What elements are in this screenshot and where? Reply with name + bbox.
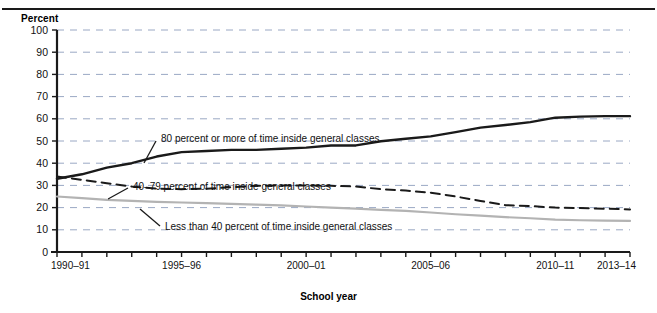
- y-tick-label: 0: [42, 246, 48, 258]
- series-line-3: [57, 197, 630, 221]
- y-tick-label: 50: [36, 135, 48, 147]
- x-axis-title: School year: [0, 291, 657, 302]
- y-tick-label: 80: [36, 68, 48, 80]
- x-tick-label: 2005–06: [411, 260, 450, 271]
- y-axis-ticks: 0102030405060708090100: [30, 24, 57, 258]
- y-tick-label: 40: [36, 157, 48, 169]
- y-tick-label: 20: [36, 201, 48, 213]
- y-tick-label: 60: [36, 112, 48, 124]
- series-label-less-than-40-percent: Less than 40 percent of time inside gene…: [165, 221, 392, 232]
- y-tick-label: 100: [30, 24, 48, 36]
- x-tick-label: 2010–11: [536, 260, 575, 271]
- x-tick-label: 1990–91: [51, 260, 90, 271]
- y-tick-label: 10: [36, 223, 48, 235]
- chart-figure: Percent 01020304050607080901001990–91199…: [0, 0, 657, 313]
- y-tick-label: 30: [36, 179, 48, 191]
- series-line-1: [57, 116, 630, 179]
- y-tick-label: 90: [36, 46, 48, 58]
- chart-svg: 01020304050607080901001990–911995–962000…: [0, 0, 657, 313]
- x-tick-label: 2000–01: [287, 260, 326, 271]
- series-label-80-percent-or-more: 80 percent or more of time inside genera…: [161, 133, 379, 144]
- x-tick-label: 2013–14: [597, 260, 636, 271]
- x-tick-labels: 1990–911995–962000–012005–062010–112013–…: [51, 260, 636, 271]
- plot-area: 01020304050607080901001990–911995–962000…: [0, 0, 657, 313]
- gridlines: [57, 30, 630, 230]
- series-label-40-79-percent: 40–79 percent of time inside general cla…: [133, 181, 331, 192]
- x-tick-label: 1995–96: [162, 260, 201, 271]
- y-tick-label: 70: [36, 90, 48, 102]
